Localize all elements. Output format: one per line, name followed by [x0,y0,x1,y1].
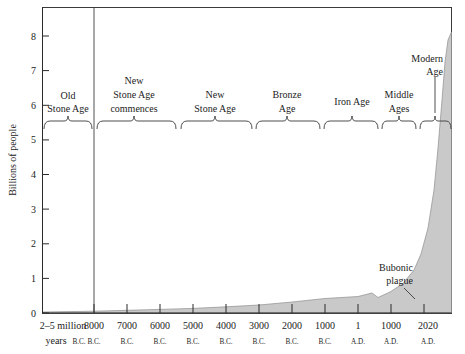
y-tick-label-4: 4 [31,169,36,180]
annotation-bubonic-plague-line2: plague [386,275,413,286]
x-tick-label-8-era: B.C. [318,338,331,346]
era-label-new-stone-age-commences-line2: Stone Age [113,89,155,100]
x-tick-label-10-era: A.D. [384,338,398,346]
x-tick-label-11: 2020 [418,320,438,331]
x-tick-label-7-era: B.C. [285,338,298,346]
x-tick-label-1: 8000 [84,320,104,331]
x-tick-label-5-era: B.C. [219,338,232,346]
x-tick-label-9: 1 [356,320,361,331]
era-braces [44,116,451,129]
annotation-bubonic-plague-line1: Bubonic [379,262,413,273]
x-tick-label-4-era: B.C. [186,338,199,346]
era-label-old-stone-age-line2: Stone Age [47,103,89,114]
population-history-chart: 0 1 2 3 4 5 6 7 8 Billions of people 2–5… [0,0,465,354]
era-label-modern-age-line2: Age [426,66,443,77]
era-label-new-stone-age-line1: New [206,89,226,100]
era-label-middle-ages-line2: Ages [389,103,410,114]
x-tick-label-3: 6000 [150,320,170,331]
era-label-middle-ages-line1: Middle [385,89,414,100]
era-label-iron-age: Iron Age [334,96,370,107]
y-tick-label-6: 6 [31,100,36,111]
x-tick-label-6: 3000 [249,320,269,331]
x-tick-label-6-era: B.C. [252,338,265,346]
x-tick-label-0-line2: years [45,335,66,346]
y-axis-title: Billions of people [7,124,18,196]
x-tick-label-2: 7000 [117,320,137,331]
x-tick-label-0-line1: 2–5 million [40,320,86,331]
x-tick-label-0-era: B.C. [72,338,85,346]
x-tick-label-7: 2000 [282,320,302,331]
era-label-new-stone-age-line2: Stone Age [194,103,236,114]
y-tick-label-8: 8 [31,31,36,42]
y-tick-marks [43,36,50,313]
y-tick-label-3: 3 [31,204,36,215]
y-tick-label-1: 1 [31,273,36,284]
x-tick-label-2-era: B.C. [120,338,133,346]
x-tick-label-9-era: A.D. [351,338,365,346]
x-tick-label-4: 5000 [183,320,203,331]
x-tick-label-8: 1000 [315,320,335,331]
y-tick-label-7: 7 [31,65,36,76]
x-tick-label-3-era: B.C. [153,338,166,346]
y-tick-label-5: 5 [31,134,36,145]
x-tick-label-1-era: B.C. [87,338,100,346]
x-tick-label-5: 4000 [216,320,236,331]
era-label-new-stone-age-commences-line3: commences [110,103,157,114]
era-label-bronze-age-line1: Bronze [273,89,302,100]
era-label-bronze-age-line2: Age [279,103,296,114]
y-tick-label-0: 0 [31,308,36,319]
era-label-old-stone-age-line1: Old [61,90,76,101]
x-tick-label-11-era: A.D. [421,338,435,346]
era-label-modern-age-line1: Modern [411,53,443,64]
y-tick-label-2: 2 [31,238,36,249]
chart-canvas: 0 1 2 3 4 5 6 7 8 Billions of people 2–5… [0,0,465,354]
x-tick-label-10: 1000 [381,320,401,331]
era-label-new-stone-age-commences-line1: New [125,75,145,86]
